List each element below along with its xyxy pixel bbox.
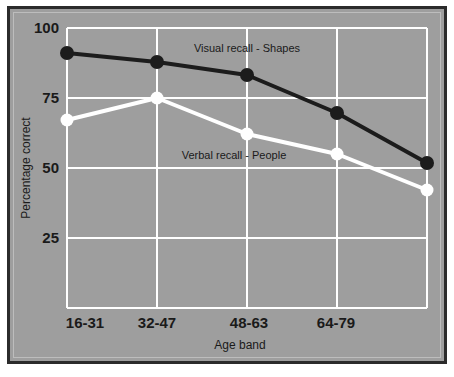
line-chart: 100 75 50 25 Percentage correct 16-31 32… (0, 0, 454, 377)
y-tick-label-25: 25 (42, 229, 59, 246)
y-axis-title: Percentage correct (19, 117, 33, 219)
data-point-visual-2 (150, 55, 164, 69)
data-point-verbal-2 (151, 92, 164, 105)
x-tick-label-4: 64-79 (317, 314, 355, 331)
data-point-verbal-1 (61, 114, 74, 127)
x-tick-label-2: 32-47 (138, 314, 176, 331)
chart-figure: 100 75 50 25 Percentage correct 16-31 32… (0, 0, 454, 377)
x-axis-title: Age band (214, 338, 265, 352)
data-point-visual-5 (420, 156, 434, 170)
series-label-verbal: Verbal recall - People (182, 149, 287, 161)
data-point-visual-3 (240, 68, 254, 82)
data-point-verbal-3 (241, 128, 254, 141)
data-point-visual-1 (60, 46, 74, 60)
data-point-verbal-5 (421, 184, 434, 197)
y-tick-label-50: 50 (42, 159, 59, 176)
x-tick-label-1: 16-31 (66, 314, 104, 331)
series-label-visual: Visual recall - Shapes (194, 42, 301, 54)
data-point-visual-4 (330, 106, 344, 120)
x-tick-label-3: 48-63 (230, 314, 268, 331)
data-point-verbal-4 (331, 148, 344, 161)
y-tick-label-100: 100 (34, 19, 59, 36)
y-tick-label-75: 75 (42, 89, 59, 106)
